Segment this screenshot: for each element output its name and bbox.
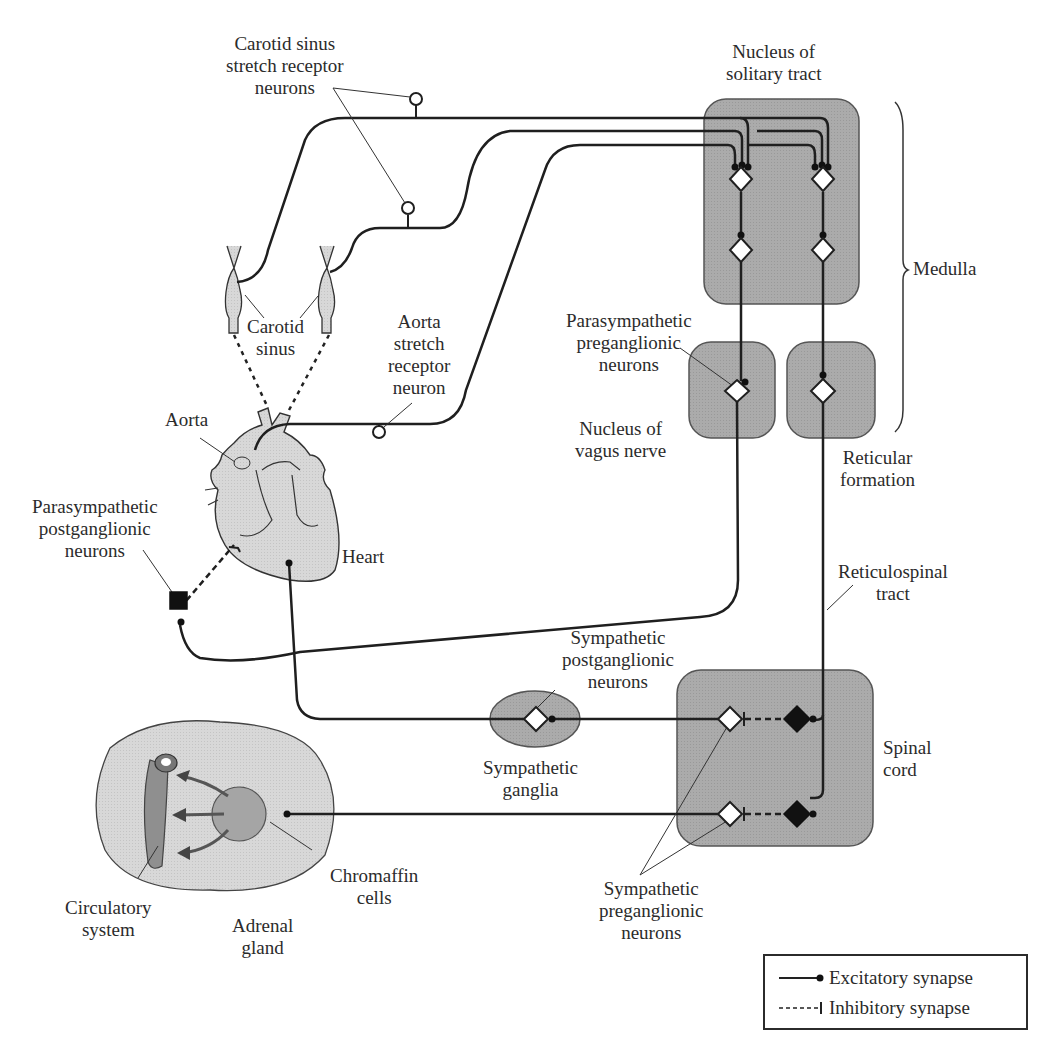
legend-item-excitatory: Excitatory synapse [775, 966, 973, 990]
label-adrenal-gland: Adrenal gland [232, 915, 293, 959]
label-aorta: Aorta [165, 409, 208, 431]
label-nucleus-solitary-tract: Nucleus of solitary tract [726, 41, 822, 85]
label-carotid-sinus-receptors: Carotid sinus stretch receptor neurons [226, 33, 344, 99]
legend-label-inhibitory: Inhibitory synapse [829, 997, 970, 1019]
heart-illustration [205, 408, 339, 581]
spinal-cord-region [677, 670, 873, 846]
adrenal-gland-illustration [96, 721, 334, 891]
label-parasympathetic-preganglionic: Parasympathetic preganglionic neurons [566, 310, 692, 376]
inhibitory-synapse-icon [775, 1001, 825, 1015]
label-medulla: Medulla [913, 258, 976, 280]
label-reticular-formation: Reticular formation [840, 447, 915, 491]
label-aorta-stretch-receptor: Aorta stretch receptor neuron [388, 311, 450, 399]
label-sympathetic-ganglia: Sympathetic ganglia [483, 757, 578, 801]
carotid-sinus-left [225, 246, 241, 333]
label-spinal-cord: Spinal cord [883, 737, 932, 781]
parasympathetic-postganglionic-neuron [170, 592, 187, 609]
label-heart: Heart [342, 546, 384, 568]
label-nucleus-vagus: Nucleus of vagus nerve [575, 418, 666, 462]
label-chromaffin-cells: Chromaffin cells [330, 865, 418, 909]
carotid-sinus-right [318, 246, 334, 333]
label-sympathetic-postganglionic: Sympathetic postganglionic neurons [562, 627, 674, 693]
legend-item-inhibitory: Inhibitory synapse [775, 996, 970, 1020]
medulla-brace [895, 102, 908, 432]
label-sympathetic-preganglionic: Sympathetic preganglionic neurons [599, 878, 703, 944]
legend-label-excitatory: Excitatory synapse [829, 967, 973, 989]
label-carotid-sinus: Carotid sinus [247, 316, 304, 360]
legend: Excitatory synapse Inhibitory synapse [763, 954, 1028, 1030]
label-reticulospinal-tract: Reticulospinal tract [838, 561, 948, 605]
label-parasympathetic-postganglionic: Parasympathetic postganglionic neurons [32, 496, 158, 562]
excitatory-synapse-icon [775, 972, 825, 984]
label-circulatory-system: Circulatory system [65, 897, 152, 941]
